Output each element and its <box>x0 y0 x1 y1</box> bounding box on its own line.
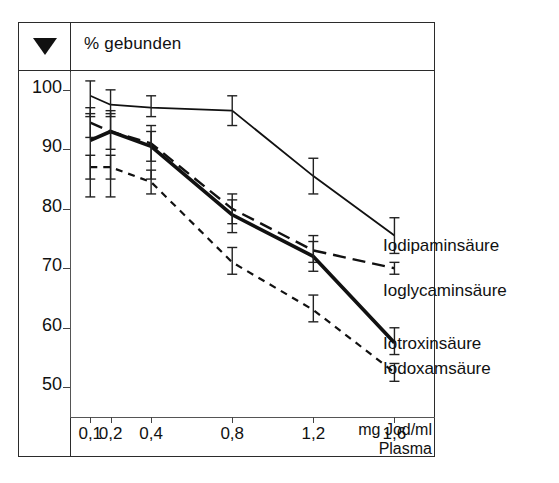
series-solid-thin <box>85 81 399 254</box>
header-divider <box>18 70 435 71</box>
y-tick <box>63 149 70 150</box>
y-tick-label: 50 <box>42 374 62 395</box>
x-axis <box>70 417 435 418</box>
series-label-1: Iodipaminsäure <box>383 236 499 256</box>
y-tick-label: 70 <box>42 255 62 276</box>
x-tick <box>90 417 91 423</box>
y-tick <box>63 387 70 388</box>
x-tick <box>111 417 112 423</box>
series-label-3: Iotroxinsäure <box>383 334 481 354</box>
y-tick-label: 100 <box>32 77 62 98</box>
y-tick <box>63 268 70 269</box>
series-label-2: Ioglycaminsäure <box>383 281 507 301</box>
series-label-4: Iodoxamsäure <box>383 359 491 379</box>
x-tick-label: 0,2 <box>99 424 123 444</box>
page-title: % gebunden <box>84 34 181 54</box>
series-dashed-short <box>85 155 399 381</box>
series-solid-thick <box>85 111 399 355</box>
triangle-down-icon <box>33 38 57 55</box>
figure-root: % gebunden 1009080706050 0,10,20,40,81,2… <box>0 0 559 483</box>
y-tick <box>63 209 70 210</box>
series-line <box>90 167 394 372</box>
y-tick <box>63 328 70 329</box>
y-tick-label: 80 <box>42 196 62 217</box>
series-line <box>90 131 394 342</box>
y-tick <box>63 90 70 91</box>
x-tick <box>232 417 233 423</box>
x-tick <box>151 417 152 423</box>
series-plot <box>70 72 435 417</box>
plot-area: 1009080706050 0,10,20,40,81,21,6 <box>70 72 435 417</box>
x-axis-unit-label: mg Jod/ml Plasma <box>314 420 432 458</box>
x-tick-label: 0,8 <box>220 424 244 444</box>
y-tick-label: 60 <box>42 315 62 336</box>
x-unit-line2: Plasma <box>314 439 432 458</box>
y-tick-label: 90 <box>42 136 62 157</box>
series-dashed-long <box>85 108 399 275</box>
x-tick-label: 0,4 <box>139 424 163 444</box>
x-unit-line1: mg Jod/ml <box>314 420 432 439</box>
series-line <box>90 123 394 269</box>
